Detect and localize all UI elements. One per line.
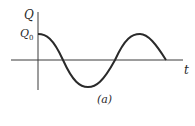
y-tick-main: Q — [20, 27, 29, 40]
y-tick-label-q0: Q0 — [20, 28, 34, 42]
x-axis-label: t — [184, 64, 189, 76]
y-axis-label: Q — [24, 9, 34, 21]
figure-caption: (a) — [97, 94, 112, 105]
y-tick-subscript: 0 — [29, 34, 33, 42]
